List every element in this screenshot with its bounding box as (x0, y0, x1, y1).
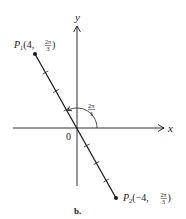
point-p1-dot (33, 52, 37, 56)
p1-close: ) (52, 39, 55, 51)
p2-comma: , (146, 192, 149, 203)
point-p2-dot (114, 196, 118, 200)
p2-r: −4 (136, 192, 147, 203)
point-p1-label: P1(4, 2π 3 ) (13, 39, 55, 52)
angle-denominator: 3 (90, 110, 93, 117)
point-p2-label: P2(−4, 2π 3 ) (122, 192, 171, 205)
p2-theta-den: 3 (162, 199, 165, 205)
svg-text:P2(−4,: P2(−4, (122, 192, 149, 204)
p1-name: P (13, 39, 20, 50)
polar-diagram: y x 0 2π 3 P1(4, 2π 3 ) P2(−4, 2π 3 ) b. (0, 0, 186, 219)
p1-theta-den: 3 (47, 46, 50, 52)
angle-numerator: 2π (88, 102, 95, 109)
y-axis-label: y (74, 11, 80, 23)
p2-close: ) (168, 192, 171, 204)
origin-label: 0 (66, 131, 71, 142)
p2-theta-num: 2π (161, 192, 167, 198)
p2-name: P (122, 192, 129, 203)
figure-caption: b. (74, 206, 81, 216)
p1-theta-num: 2π (45, 39, 51, 45)
x-axis-label: x (167, 122, 173, 134)
svg-text:P1(4,: P1(4, (13, 39, 34, 51)
polar-line (35, 54, 116, 198)
p1-comma: , (32, 39, 35, 50)
angle-label: 2π 3 (88, 102, 95, 117)
